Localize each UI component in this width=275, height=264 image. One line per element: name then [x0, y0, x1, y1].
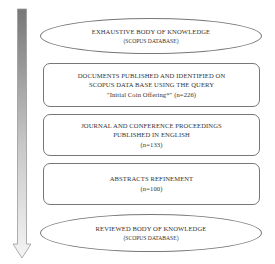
exhaustive-body-ellipse: EXHAUSTIVE BODY OF KNOWLEDGE (SCOPUS DAT…: [40, 18, 262, 54]
step-title: EXHAUSTIVE BODY OF KNOWLEDGE: [92, 27, 210, 37]
step-line: SCOPUS DATA BASE USING THE QUERY: [89, 80, 214, 90]
step-line: DOCUMENTS PUBLISHED AND IDENTIFIED ON: [78, 71, 226, 81]
step-count: (n=100): [141, 184, 163, 194]
step-subtitle: (SCOPUS DATABASE): [123, 37, 178, 46]
journal-conference-box: JOURNAL AND CONFERENCE PROCEEDINGS PUBLI…: [43, 114, 260, 156]
step-line: PUBLISHED IN ENGLISH: [113, 130, 190, 140]
step-subtitle: (SCOPUS DATABASE): [123, 234, 178, 243]
down-arrow-icon: [12, 8, 32, 260]
step-title: REVIEWED BODY OF KNOWLEDGE: [96, 224, 207, 234]
documents-identified-box: DOCUMENTS PUBLISHED AND IDENTIFIED ON SC…: [43, 63, 260, 107]
step-line: JOURNAL AND CONFERENCE PROCEEDINGS: [81, 121, 222, 131]
reviewed-body-ellipse: REVIEWED BODY OF KNOWLEDGE (SCOPUS DATAB…: [40, 214, 262, 252]
abstracts-refinement-box: ABSTRACTS REFINEMENT (n=100): [43, 163, 260, 205]
step-count: "Initial Coin Offering*" (n=226): [107, 90, 196, 100]
step-line: ABSTRACTS REFINEMENT: [110, 174, 194, 184]
step-count: (n=133): [141, 140, 163, 150]
